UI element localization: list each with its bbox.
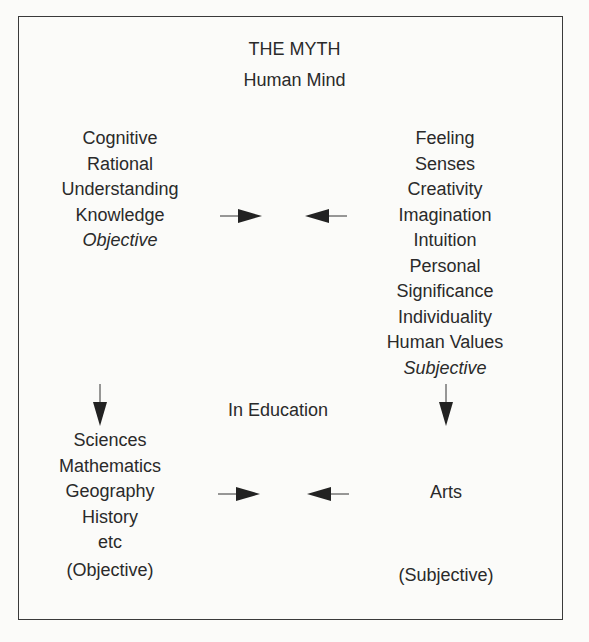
list-item: Creativity [345, 177, 545, 203]
subjects-list: Sciences Mathematics Geography History e… [10, 428, 210, 583]
list-item: Intuition [345, 228, 545, 254]
list-item: Personal [345, 254, 545, 280]
list-item: Rational [20, 152, 220, 178]
arts-label: Arts [346, 480, 546, 506]
list-item: Individuality [345, 305, 545, 331]
arrow-right-icon [218, 486, 260, 502]
subjective-label: Subjective [345, 356, 545, 382]
arrow-down-icon [92, 384, 108, 426]
diagram-title: THE MYTH [0, 37, 589, 63]
feeling-list: Feeling Senses Creativity Imagination In… [345, 126, 545, 381]
list-item: Geography [10, 479, 210, 505]
objective-label: Objective [20, 228, 220, 254]
arrow-left-icon [307, 486, 349, 502]
list-item: etc [10, 530, 210, 556]
list-item: Cognitive [20, 126, 220, 152]
in-education-label: In Education [198, 398, 358, 424]
list-item: Knowledge [20, 203, 220, 229]
arrow-left-icon [305, 208, 347, 224]
list-item: Mathematics [10, 454, 210, 480]
arrow-right-icon [220, 208, 262, 224]
list-item: Human Values [345, 330, 545, 356]
list-item: Feeling [345, 126, 545, 152]
arrow-down-icon [438, 384, 454, 426]
list-item: Significance [345, 279, 545, 305]
cognitive-list: Cognitive Rational Understanding Knowled… [20, 126, 220, 254]
list-item: Imagination [345, 203, 545, 229]
list-item: History [10, 505, 210, 531]
diagram-subtitle: Human Mind [0, 68, 589, 94]
subjective-paren-label: (Subjective) [346, 563, 546, 589]
list-item: Senses [345, 152, 545, 178]
list-item: Sciences [10, 428, 210, 454]
list-item: Understanding [20, 177, 220, 203]
objective-paren-label: (Objective) [10, 558, 210, 584]
